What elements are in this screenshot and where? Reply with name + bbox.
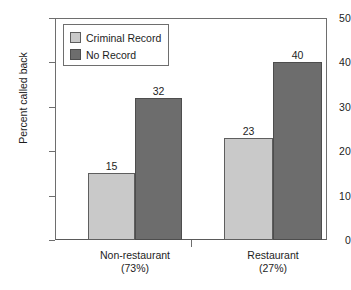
legend-label-criminal-record: Criminal Record [86,32,161,44]
x-group-label-non-restaurant-text: Non-restaurant [100,249,170,261]
legend: Criminal Record No Record [63,24,169,66]
x-group-label-restaurant-pct: (27%) [198,262,348,275]
bar-value-restaurant-criminal-record: 23 [229,125,269,137]
legend-label-no-record: No Record [86,49,136,61]
y-tick-mark-10 [49,196,55,197]
y-tick-mark-40 [49,62,55,63]
bar-restaurant-no-record [273,62,322,240]
y-tick-label-50: 50 [303,12,351,24]
bar-nonrestaurant-criminal-record [88,173,135,240]
legend-swatch-icon-no-record [70,49,81,60]
legend-swatch-icon-criminal-record [70,32,81,43]
x-group-label-restaurant-text: Restaurant [247,249,298,261]
x-group-label-non-restaurant-pct: (73%) [60,262,210,275]
y-tick-mark-0 [49,240,55,241]
bar-value-nonrestaurant-criminal-record: 15 [92,160,132,172]
y-tick-mark-50 [49,18,55,19]
y-axis-title: Percent called back [17,28,29,168]
bar-nonrestaurant-no-record [135,98,182,240]
x-group-label-non-restaurant: Non-restaurant (73%) [60,249,210,275]
legend-entry-no-record: No Record [70,46,168,63]
y-tick-mark-20 [49,151,55,152]
bar-restaurant-criminal-record [224,138,273,240]
legend-entry-criminal-record: Criminal Record [70,29,168,46]
bar-chart: 50 40 30 20 10 0 Percent called back 15 … [0,0,351,290]
bar-value-restaurant-no-record: 40 [278,49,318,61]
bar-value-nonrestaurant-no-record: 32 [139,85,179,97]
x-axis-mid-tick [191,240,192,247]
y-tick-mark-30 [49,107,55,108]
x-group-label-restaurant: Restaurant (27%) [198,249,348,275]
